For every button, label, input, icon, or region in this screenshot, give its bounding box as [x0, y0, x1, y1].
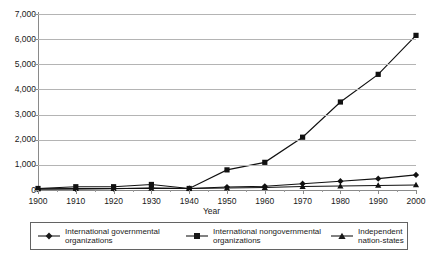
x-axis-tick-mark: [151, 190, 152, 194]
gridline: [38, 89, 416, 90]
x-axis-tick-mark: [378, 190, 379, 194]
y-axis-tick-mark: [34, 39, 38, 40]
y-axis-tick-mark: [34, 115, 38, 116]
x-axis-tick-label: 1940: [169, 196, 209, 206]
x-axis-minor-tick: [397, 190, 398, 192]
x-axis-minor-tick: [246, 190, 247, 192]
x-axis-tick-label: 2000: [396, 196, 430, 206]
y-axis-tick-label: 1,000: [15, 160, 36, 169]
legend-label: International governmental organizations: [65, 227, 179, 246]
x-axis-tick-mark: [114, 190, 115, 194]
x-axis-tick-mark: [76, 190, 77, 194]
y-axis-tick-mark: [34, 165, 38, 166]
y-axis-tick-label: 2,000: [15, 135, 36, 144]
chart-legend: International governmental organizations…: [30, 222, 408, 250]
legend-entry-ingo: International nongovernmental organizati…: [179, 223, 324, 249]
x-axis-tick-mark: [38, 190, 39, 194]
y-axis-tick-mark: [34, 64, 38, 65]
square-marker-icon: [186, 231, 208, 241]
x-axis-minor-tick: [95, 190, 96, 192]
x-axis-minor-tick: [359, 190, 360, 192]
y-axis-tick-label: 5,000: [15, 60, 36, 69]
plot-area: 01,0002,0003,0004,0005,0006,0007,000 190…: [0, 0, 423, 214]
x-axis-tick-label: 1910: [56, 196, 96, 206]
data-series-layer: [38, 14, 416, 190]
x-axis-tick-label: 1900: [18, 196, 58, 206]
y-axis-tick-labels: 01,0002,0003,0004,0005,0006,0007,000: [0, 0, 36, 214]
y-axis-tick-label: 3,000: [15, 110, 36, 119]
series-1: [35, 33, 418, 191]
gridline: [38, 140, 416, 141]
gridline: [38, 165, 416, 166]
x-axis-minor-tick: [133, 190, 134, 192]
x-axis-tick-mark: [340, 190, 341, 194]
gridline: [38, 64, 416, 65]
legend-label: Independent nation-states: [358, 227, 407, 246]
legend-entry-igo: International governmental organizations: [31, 223, 179, 249]
legend-label: International nongovernmental organizati…: [213, 227, 324, 246]
x-axis-tick-label: 1930: [131, 196, 171, 206]
x-axis-tick-label: 1960: [245, 196, 285, 206]
x-axis-minor-tick: [322, 190, 323, 192]
y-axis-tick-mark: [34, 14, 38, 15]
x-axis-tick-label: 1950: [207, 196, 247, 206]
x-axis-tick-mark: [265, 190, 266, 194]
x-axis-minor-tick: [170, 190, 171, 192]
x-axis-tick-label: 1990: [358, 196, 398, 206]
y-axis-tick-label: 7,000: [15, 10, 36, 19]
x-axis-tick-mark: [189, 190, 190, 194]
plot-canvas: [38, 14, 416, 190]
y-axis-tick-mark: [34, 140, 38, 141]
legend-entry-nation-states: Independent nation-states: [324, 223, 407, 249]
y-axis-tick-mark: [34, 89, 38, 90]
gridline: [38, 14, 416, 15]
gridline: [38, 39, 416, 40]
x-axis-tick-label: 1920: [94, 196, 134, 206]
x-axis-minor-tick: [57, 190, 58, 192]
diamond-marker-icon: [38, 231, 60, 241]
x-axis-minor-tick: [208, 190, 209, 192]
y-axis-tick-label: 6,000: [15, 35, 36, 44]
x-axis-minor-tick: [284, 190, 285, 192]
triangle-marker-icon: [331, 231, 353, 241]
x-axis-tick-label: 1980: [320, 196, 360, 206]
x-axis-tick-mark: [227, 190, 228, 194]
x-axis-tick-mark: [303, 190, 304, 194]
x-axis-tick-mark: [416, 190, 417, 194]
x-axis-tick-label: 1970: [283, 196, 323, 206]
y-axis-tick-mark: [34, 190, 38, 191]
y-axis-tick-label: 4,000: [15, 85, 36, 94]
gridline: [38, 115, 416, 116]
x-axis-title: Year: [0, 206, 423, 216]
